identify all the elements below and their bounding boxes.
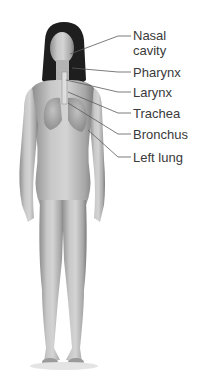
label-larynx: Larynx (133, 85, 172, 100)
label-pharynx: Pharynx (133, 65, 181, 80)
label-left-lung: Left lung (133, 150, 183, 165)
left-leg (39, 200, 64, 362)
label-bronchus: Bronchus (133, 127, 188, 142)
label-trachea: Trachea (133, 106, 180, 121)
right-leg (62, 200, 87, 362)
label-nasal-line1: Nasal (133, 28, 166, 43)
label-nasal-line2: cavity (133, 43, 166, 58)
trachea (62, 72, 67, 104)
right-arm (90, 88, 105, 222)
left-arm (19, 88, 38, 222)
label-nasal-cavity: Nasal cavity (133, 28, 166, 58)
head (50, 32, 74, 64)
anatomy-figure (0, 0, 199, 376)
